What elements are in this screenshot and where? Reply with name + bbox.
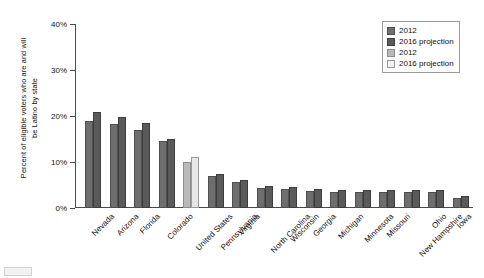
bar bbox=[167, 139, 175, 208]
bar bbox=[240, 180, 248, 208]
bar bbox=[338, 190, 346, 208]
bar bbox=[257, 188, 265, 208]
latino-eligible-voters-bar-chart: Percent of eligible voters who are and w… bbox=[0, 0, 484, 278]
legend-item: 2012 bbox=[387, 47, 454, 58]
bar bbox=[85, 121, 93, 208]
bar bbox=[142, 123, 150, 208]
y-axis-tick-label: 30% bbox=[51, 66, 67, 75]
legend-item: 2012 bbox=[387, 25, 454, 36]
x-axis-tick-cell: Nevada bbox=[81, 209, 106, 278]
x-axis-tick-cell: Pennsylvania bbox=[204, 209, 229, 278]
legend-label: 2016 projection bbox=[399, 58, 454, 69]
bar-group bbox=[277, 24, 302, 208]
bar bbox=[289, 187, 297, 208]
legend-item: 2016 projection bbox=[387, 58, 454, 69]
scan-artifact bbox=[4, 267, 32, 276]
x-axis-tick-label: Ohio bbox=[430, 212, 448, 230]
x-axis-tick-cell: Wisconsin bbox=[277, 209, 302, 278]
bar bbox=[412, 190, 420, 208]
bar bbox=[159, 141, 167, 208]
bar-group bbox=[179, 24, 204, 208]
x-axis-tick-cell: New Hampshire bbox=[400, 209, 425, 278]
x-axis-tick-cell: Florida bbox=[130, 209, 155, 278]
x-axis-tick-labels: NevadaArizonaFloridaColoradoUnited State… bbox=[75, 209, 473, 278]
bar bbox=[363, 190, 371, 208]
x-axis-tick-cell: Ohio bbox=[424, 209, 449, 278]
bar bbox=[265, 186, 273, 208]
legend-label: 2012 bbox=[399, 25, 417, 36]
bar bbox=[118, 117, 126, 208]
legend-swatch bbox=[387, 49, 395, 57]
bar bbox=[330, 192, 338, 208]
bar-group bbox=[106, 24, 131, 208]
bar-group bbox=[81, 24, 106, 208]
bar-group bbox=[351, 24, 376, 208]
y-axis-title: Percent of eligible voters who are and w… bbox=[12, 0, 46, 215]
bar-group bbox=[302, 24, 327, 208]
y-axis-tick-label: 0% bbox=[55, 204, 67, 213]
bar-group bbox=[326, 24, 351, 208]
y-axis-tick-label: 20% bbox=[51, 112, 67, 121]
x-axis-tick-cell: Georgia bbox=[302, 209, 327, 278]
bar-group bbox=[130, 24, 155, 208]
bar bbox=[306, 191, 314, 208]
bar-group bbox=[228, 24, 253, 208]
bar bbox=[93, 112, 101, 208]
bar bbox=[428, 192, 436, 208]
bar bbox=[314, 189, 322, 208]
legend-swatch bbox=[387, 38, 395, 46]
bar bbox=[387, 190, 395, 208]
bar bbox=[110, 124, 118, 208]
bar-group bbox=[253, 24, 278, 208]
bar bbox=[281, 189, 289, 208]
x-axis-tick-cell: North Carolina bbox=[253, 209, 278, 278]
y-axis-title-line-2: be Latino by state bbox=[29, 37, 40, 177]
bar bbox=[453, 198, 461, 208]
y-axis-tick-label: 40% bbox=[51, 20, 67, 29]
bar bbox=[208, 176, 216, 208]
x-axis-tick-cell: Colorado bbox=[155, 209, 180, 278]
bar bbox=[355, 192, 363, 208]
bar bbox=[134, 130, 142, 208]
x-axis-tick-cell: Iowa bbox=[449, 209, 474, 278]
x-axis-tick-cell: Minnesota bbox=[351, 209, 376, 278]
x-axis-tick-cell: Arizona bbox=[106, 209, 131, 278]
bar bbox=[232, 182, 240, 208]
bar bbox=[404, 192, 412, 208]
x-axis-tick-cell: Michigan bbox=[326, 209, 351, 278]
legend-item: 2016 projection bbox=[387, 36, 454, 47]
bar bbox=[216, 174, 224, 208]
x-axis-tick-cell: Virginia bbox=[228, 209, 253, 278]
y-axis-title-line-1: Percent of eligible voters who are and w… bbox=[18, 37, 29, 177]
bar-group bbox=[155, 24, 180, 208]
bar-group bbox=[204, 24, 229, 208]
legend-label: 2016 projection bbox=[399, 36, 454, 47]
chart-legend: 20122016 projection20122016 projection bbox=[382, 21, 460, 73]
bar bbox=[461, 196, 469, 208]
bar bbox=[436, 190, 444, 208]
bar bbox=[183, 162, 191, 208]
y-axis-tick-label: 10% bbox=[51, 158, 67, 167]
x-axis-tick-cell: Missouri bbox=[375, 209, 400, 278]
x-axis-tick-cell: United States bbox=[179, 209, 204, 278]
legend-label: 2012 bbox=[399, 47, 417, 58]
legend-swatch bbox=[387, 27, 395, 35]
legend-swatch bbox=[387, 60, 395, 68]
x-axis-tick-label: Iowa bbox=[455, 212, 473, 230]
bar bbox=[191, 157, 199, 208]
bar bbox=[379, 192, 387, 208]
